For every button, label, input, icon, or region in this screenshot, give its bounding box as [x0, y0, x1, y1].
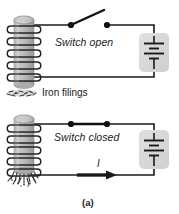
switch-open-label: Switch open — [55, 37, 113, 48]
current-arrow — [77, 171, 117, 180]
current-label: I — [97, 159, 100, 169]
iron-filings-label: Iron filings — [42, 88, 88, 98]
switch-closed-symbol[interactable] — [68, 121, 110, 127]
battery-symbol-closed — [139, 130, 169, 169]
iron-filings-scattered — [7, 90, 37, 97]
circuit-wire-open — [30, 25, 154, 77]
switch-open-symbol[interactable] — [68, 10, 110, 28]
panel-switch-closed — [7, 115, 169, 187]
electromagnet-figure: Switch open Iron filings Switch closed I… — [0, 0, 179, 214]
panel-switch-open — [7, 10, 169, 96]
figure-caption: (a) — [82, 198, 94, 208]
switch-closed-label: Switch closed — [54, 132, 120, 143]
battery-symbol-open — [139, 33, 169, 72]
figure-canvas — [0, 0, 179, 214]
